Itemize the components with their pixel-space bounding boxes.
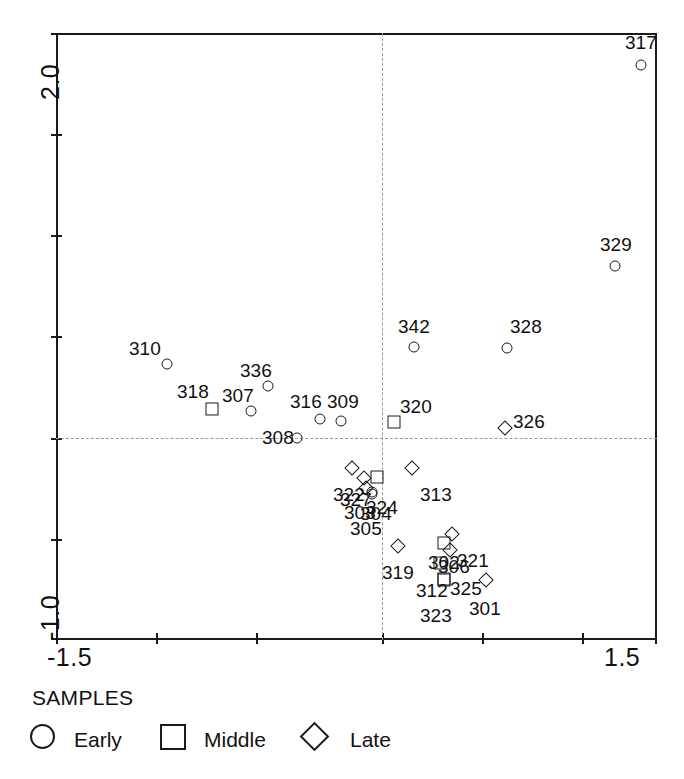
legend-label-middle: Middle [204, 728, 266, 752]
y-tick-0.5 [51, 336, 62, 338]
point-label: 309 [327, 391, 359, 413]
circle-marker-icon [246, 406, 257, 417]
circle-marker-icon [336, 416, 347, 427]
horizontal-zero-reference-line [56, 438, 657, 439]
y-axis-min-label: -1.0 [36, 595, 65, 640]
point-label: 317 [625, 32, 657, 54]
point-label: 307 [222, 385, 254, 407]
x-axis-min-label: -1.5 [47, 643, 92, 672]
x-axis-line [56, 638, 657, 640]
circle-marker-icon [636, 60, 647, 71]
legend-label-early: Early [74, 728, 122, 752]
point-label: 328 [510, 316, 542, 338]
point-label: 326 [513, 411, 545, 433]
plot-area [56, 33, 657, 640]
point-label: 325 [450, 578, 482, 600]
square-marker-icon [371, 471, 384, 484]
diamond-marker-icon [300, 722, 330, 752]
circle-marker-icon [30, 724, 55, 749]
y-axis-max-label: 2.0 [36, 64, 65, 100]
square-marker-icon [388, 416, 401, 429]
x-tick-1.0 [582, 633, 584, 644]
circle-marker-icon [162, 359, 173, 370]
point-label: 320 [400, 396, 432, 418]
y-tick-1.0 [51, 235, 62, 237]
y-tick-1.5 [51, 134, 62, 136]
vertical-zero-reference-line [382, 33, 383, 640]
circle-marker-icon [315, 414, 326, 425]
point-label: 308 [262, 427, 294, 449]
point-label: 301 [469, 598, 501, 620]
circle-marker-icon [263, 381, 274, 392]
point-label: 305 [350, 518, 382, 540]
plot-frame-top-border [56, 33, 657, 35]
x-tick-0.5 [482, 633, 484, 644]
legend-label-late: Late [350, 728, 391, 752]
x-axis-max-label: 1.5 [604, 643, 640, 672]
y-tick--0.5 [51, 539, 62, 541]
legend: SAMPLES Early Middle Late [30, 686, 430, 766]
point-label: 336 [240, 360, 272, 382]
point-label: 318 [177, 381, 209, 403]
x-tick--1.0 [156, 633, 158, 644]
circle-marker-icon [610, 261, 621, 272]
x-tick-1.5 [655, 633, 657, 644]
plot-frame-right-border [655, 33, 657, 640]
square-marker-icon [160, 724, 186, 750]
square-marker-icon [438, 574, 451, 587]
point-label: 342 [398, 316, 430, 338]
legend-title: SAMPLES [32, 686, 133, 710]
legend-items-row: Early Middle Late [30, 720, 430, 760]
point-label: 316 [290, 391, 322, 413]
y-tick-2.0 [51, 33, 62, 35]
point-label: 319 [382, 562, 414, 584]
x-tick--0.5 [256, 633, 258, 644]
circle-marker-icon [367, 489, 378, 500]
square-marker-icon [206, 403, 219, 416]
point-label: 329 [600, 234, 632, 256]
point-label: 310 [129, 338, 161, 360]
point-label: 323 [420, 605, 452, 627]
circle-marker-icon [409, 342, 420, 353]
square-marker-icon [434, 557, 447, 570]
scatter-plot-figure: 3173293283423103363183073163093263203083… [0, 0, 684, 779]
circle-marker-icon [502, 343, 513, 354]
point-label: 313 [420, 484, 452, 506]
